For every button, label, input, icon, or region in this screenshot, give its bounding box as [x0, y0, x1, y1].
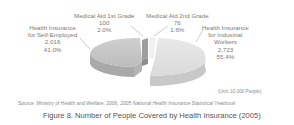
- figure-caption: Figure 8. Number of People Covered by He…: [43, 111, 261, 120]
- label-aid2-percent: 1.6%: [146, 26, 209, 33]
- leader-self: [80, 38, 90, 49]
- label-medical-aid-1st: Medical Aid 1st Grade 100 2.0%: [74, 12, 135, 34]
- source-prefix: Source: Ministry of Health and Welfare, …: [18, 100, 120, 106]
- label-self-employed-line1: Health Insurance: [28, 24, 77, 31]
- label-aid1-value: 100: [74, 19, 135, 26]
- label-industrial-line3: Workers: [202, 38, 249, 45]
- label-industrial-percent: 55.4%: [202, 53, 249, 60]
- label-self-employed-line2: for Self-Employed: [28, 31, 77, 38]
- label-aid1-percent: 2.0%: [74, 26, 135, 33]
- unit-note: (Unit: 10,000 People): [218, 89, 261, 94]
- label-aid2-line1: Medical Aid 2nd Grade: [146, 12, 209, 19]
- source-note: Source: Ministry of Health and Welfare, …: [18, 100, 235, 106]
- slice-medical-aid-1st: [142, 38, 148, 60]
- label-industrial-value: 2,723: [202, 46, 249, 53]
- slice-medical-aid-2nd: [150, 38, 155, 58]
- source-title: 2005 National Health Insurance Statistic…: [120, 100, 235, 106]
- label-self-employed-percent: 41.0%: [28, 46, 77, 53]
- label-industrial-line2: for Industrial: [202, 31, 249, 38]
- label-industrial-line1: Health Insurance: [202, 24, 249, 31]
- label-industrial: Health Insurance for Industrial Workers …: [202, 24, 249, 60]
- label-self-employed-value: 2,016: [28, 38, 77, 45]
- label-medical-aid-2nd: Medical Aid 2nd Grade 76 1.6%: [146, 12, 209, 34]
- label-aid1-line1: Medical Aid 1st Grade: [74, 12, 135, 19]
- label-self-employed: Health Insurance for Self-Employed 2,016…: [28, 24, 77, 53]
- label-aid2-value: 76: [146, 19, 209, 26]
